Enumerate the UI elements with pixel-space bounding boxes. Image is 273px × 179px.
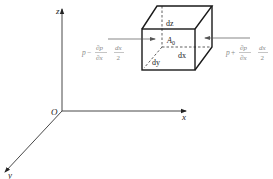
dy-label: dy	[152, 58, 160, 67]
svg-text:∂p: ∂p	[96, 44, 103, 52]
svg-text:+: +	[231, 48, 235, 57]
y-axis	[5, 111, 62, 172]
svg-text:p: p	[225, 48, 230, 57]
svg-text:∂p: ∂p	[240, 44, 247, 52]
center-point-label: A0	[166, 36, 175, 46]
svg-text:p: p	[81, 48, 86, 57]
cube-top-edges	[142, 6, 212, 29]
svg-text:dx: dx	[115, 44, 123, 52]
origin-label: O	[51, 107, 58, 117]
right-force-expression: p + ∂p ∂x dx 2	[225, 44, 268, 62]
diagram-canvas: z x y O dz dx dy A0 p − ∂p ∂x dx 2 p + ∂…	[0, 0, 273, 179]
svg-text:∂x: ∂x	[96, 54, 103, 62]
z-axis-label: z	[55, 6, 60, 16]
coordinate-axes	[5, 9, 186, 172]
dz-label: dz	[166, 19, 174, 28]
x-axis-label: x	[181, 112, 186, 122]
left-force-expression: p − ∂p ∂x dx 2	[81, 44, 124, 62]
y-axis-label: y	[7, 170, 12, 179]
svg-text:∂x: ∂x	[240, 54, 247, 62]
dx-label: dx	[178, 51, 186, 60]
svg-text:−: −	[87, 48, 91, 57]
svg-text:2: 2	[261, 54, 265, 62]
svg-text:dx: dx	[259, 44, 267, 52]
svg-text:2: 2	[117, 54, 121, 62]
